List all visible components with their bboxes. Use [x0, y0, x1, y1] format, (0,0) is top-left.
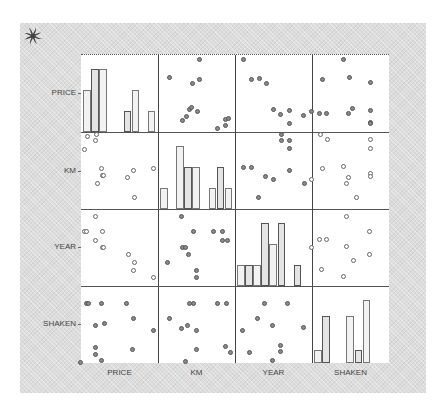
histogram-year — [235, 209, 312, 286]
histogram-bar — [346, 316, 354, 363]
scatter-cell-price-vs-shaken — [312, 55, 389, 132]
data-point — [102, 321, 107, 326]
data-point — [341, 274, 346, 279]
col-label-price: PRICE — [81, 368, 158, 377]
data-point — [86, 301, 91, 306]
data-point — [256, 195, 261, 200]
y-tick — [78, 171, 81, 172]
data-point — [257, 76, 262, 81]
histogram-price — [81, 55, 158, 132]
histogram-bar — [209, 188, 217, 209]
data-point — [351, 258, 356, 263]
data-point — [241, 165, 246, 170]
data-point — [309, 109, 314, 114]
data-point — [302, 181, 307, 186]
data-point — [301, 325, 306, 330]
data-point — [215, 126, 220, 131]
scatter-cell-km-vs-price — [81, 132, 158, 209]
data-point — [101, 245, 106, 250]
data-point — [264, 81, 269, 86]
data-point — [82, 147, 87, 152]
y-tick — [78, 247, 81, 248]
row-label-km: KM — [16, 166, 76, 175]
data-point — [211, 229, 216, 234]
data-point — [350, 106, 355, 111]
data-point — [101, 173, 106, 178]
row-label-year: YEAR — [16, 242, 76, 251]
histogram-bar — [184, 167, 192, 209]
data-point — [279, 132, 284, 137]
histogram-bar — [83, 90, 91, 132]
data-point — [78, 360, 83, 365]
data-point — [223, 344, 228, 349]
data-point — [341, 57, 346, 62]
col-label-shaken: SHAKEN — [312, 368, 389, 377]
scatter-cell-price-vs-km — [158, 55, 235, 132]
data-point — [151, 275, 156, 280]
data-point — [124, 301, 129, 306]
histogram-shaken — [312, 286, 389, 363]
histogram-bar — [237, 265, 245, 286]
scatter-cell-shaken-vs-price — [81, 286, 158, 363]
scatter-cell-shaken-vs-km — [158, 286, 235, 363]
data-point — [319, 267, 324, 272]
y-tick — [78, 324, 81, 325]
histogram-bar — [294, 265, 302, 286]
histogram-bar — [363, 300, 371, 363]
data-point — [247, 350, 252, 355]
data-point — [324, 237, 329, 242]
data-point — [167, 316, 172, 321]
histogram-bar — [225, 188, 233, 209]
data-point — [344, 214, 349, 219]
data-point — [228, 350, 233, 355]
data-point — [131, 268, 136, 273]
data-point — [249, 165, 254, 170]
row-label-price: PRICE — [16, 88, 76, 97]
data-point — [85, 134, 90, 139]
data-point — [94, 132, 99, 137]
data-point — [368, 80, 373, 85]
data-point — [324, 111, 329, 116]
data-point — [197, 77, 202, 82]
data-point — [195, 109, 200, 114]
data-point — [225, 238, 230, 243]
data-point — [220, 229, 225, 234]
histogram-bar — [269, 244, 277, 286]
data-point — [151, 166, 156, 171]
data-point — [215, 301, 220, 306]
data-point — [354, 195, 359, 200]
data-point — [186, 252, 191, 257]
data-point — [320, 166, 325, 171]
data-point — [224, 301, 229, 306]
data-point — [99, 358, 104, 363]
data-point — [194, 347, 199, 352]
data-point — [185, 323, 190, 328]
data-point — [368, 137, 373, 142]
data-point — [93, 323, 98, 328]
histogram-bar — [124, 111, 132, 132]
data-point — [93, 352, 98, 357]
data-point — [130, 347, 135, 352]
data-point — [317, 237, 322, 242]
data-point — [132, 260, 137, 265]
data-point — [271, 107, 276, 112]
data-point — [344, 244, 349, 249]
scatter-matrix-grid — [81, 54, 389, 363]
histogram-bar — [176, 146, 184, 209]
data-point — [287, 108, 292, 113]
data-point — [93, 238, 98, 243]
data-point — [341, 164, 346, 169]
data-point — [368, 121, 373, 126]
scatter-cell-year-vs-km — [158, 209, 235, 286]
row-label-shaken: SHAKEN — [16, 319, 76, 328]
data-point — [194, 268, 199, 273]
data-point — [318, 132, 323, 137]
data-point — [126, 252, 131, 257]
data-point — [278, 343, 283, 348]
data-point — [309, 177, 314, 182]
histogram-bar — [132, 90, 140, 132]
col-label-year: YEAR — [235, 368, 312, 377]
histogram-bar — [99, 69, 107, 132]
data-point — [241, 57, 246, 62]
data-point — [367, 229, 372, 234]
